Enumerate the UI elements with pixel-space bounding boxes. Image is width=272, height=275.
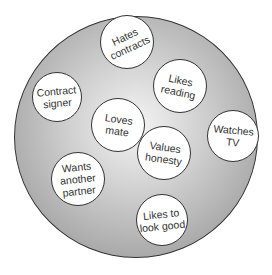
trait-label-line: partner — [61, 183, 98, 199]
trait-node-hates-contracts: Hatescontracts — [100, 15, 154, 69]
trait-node-loves-mate: Lovesmate — [91, 98, 145, 152]
trait-node-contract-signer: Contractsigner — [32, 72, 82, 122]
trait-label: Wantsanotherpartner — [58, 159, 97, 199]
trait-label-line: signer — [37, 95, 78, 110]
trait-label: Likesreading — [160, 71, 199, 102]
trait-label: Contractsigner — [36, 83, 78, 110]
trait-label: Likes tolook good — [138, 206, 186, 235]
trait-label-line: mate — [102, 123, 131, 139]
trait-label: Lovesmate — [102, 111, 133, 139]
trait-label: Hatescontracts — [103, 22, 152, 62]
trait-node-likes-reading: Likesreading — [153, 59, 207, 113]
trait-label: Valueshonesty — [144, 139, 184, 168]
trait-node-watches-tv: WatchesTV — [207, 110, 259, 162]
trait-node-likes-to-look-good: Likes tolook good — [136, 194, 188, 246]
trait-node-wants-another-partner: Wantsanotherpartner — [51, 152, 105, 206]
trait-label: WatchesTV — [212, 122, 254, 149]
trait-node-values-honesty: Valueshonesty — [137, 126, 191, 180]
